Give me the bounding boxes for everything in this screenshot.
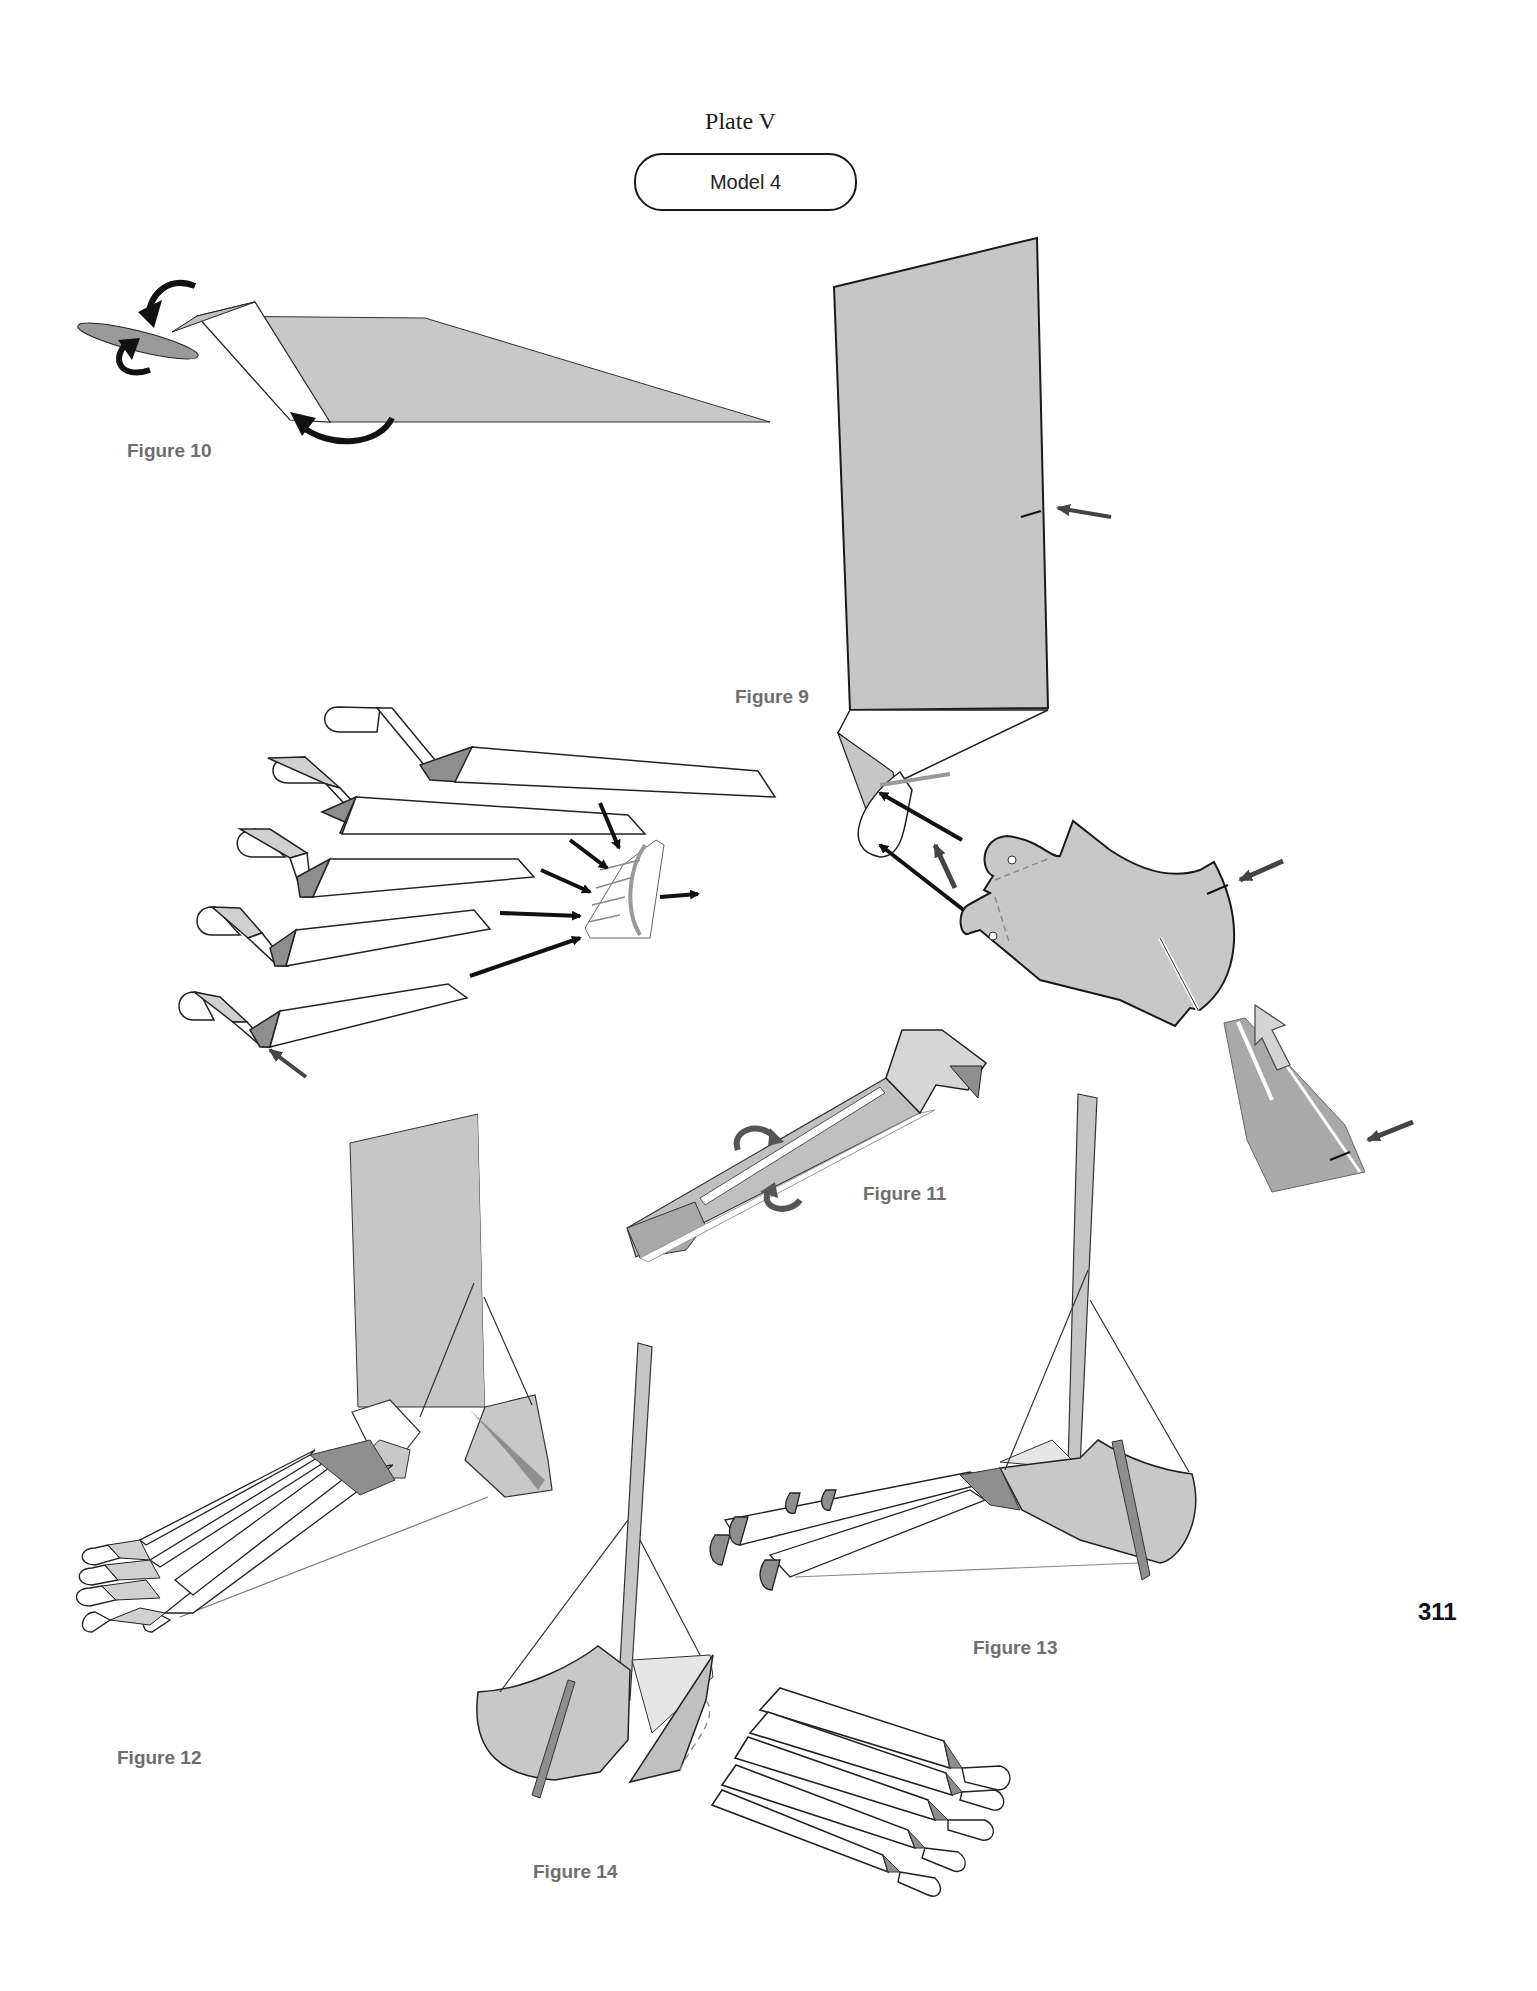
- figure-12-drawing: [77, 1114, 553, 1632]
- page-number: 311: [1418, 1598, 1457, 1626]
- toe-strip-3: [237, 829, 534, 897]
- figure-11-drawing: [627, 1030, 986, 1262]
- figure-11-label: Figure 11: [863, 1183, 946, 1205]
- figure-9-toe-strips: [179, 707, 775, 1077]
- diagram-artwork: [0, 0, 1537, 1991]
- figure-14-label: Figure 14: [533, 1861, 617, 1883]
- figure-10-label: Figure 10: [127, 440, 211, 462]
- toe-strip-4: [197, 907, 490, 966]
- figure-9-connector: [585, 840, 664, 938]
- toe-strip-1: [325, 707, 775, 797]
- figure-9-heel-piece: [961, 821, 1283, 1026]
- figure-9-ankle-flap: [1224, 1005, 1413, 1192]
- figure-9-label: Figure 9: [735, 686, 809, 708]
- figure-13-label: Figure 13: [973, 1637, 1057, 1659]
- figure-14-drawing: [477, 1343, 1010, 1896]
- figure-10-drawing: [75, 283, 770, 441]
- figure-12-label: Figure 12: [117, 1747, 201, 1769]
- figure-9-leg-panel: [834, 238, 1111, 857]
- toe-strip-5: [179, 984, 467, 1047]
